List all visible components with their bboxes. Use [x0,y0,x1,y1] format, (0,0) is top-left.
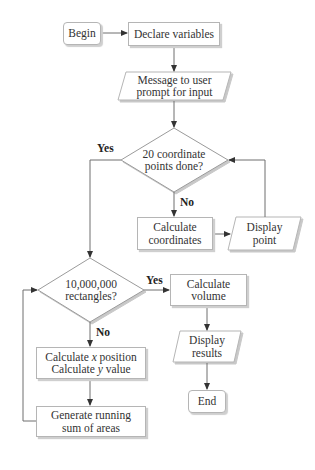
display-results-line1: Display [189,334,225,347]
calculate-coordinates-line2: coordinates [148,234,201,247]
running-sum-line2: sum of areas [62,422,120,435]
display-point-node: Display point [228,217,301,250]
decision1-node: 20 coordinate points done? [130,145,218,175]
calc-x-pre: Calculate [45,351,91,363]
begin-label: Begin [68,27,95,40]
display-point-line1: Display [247,221,283,234]
calculate-volume-line1: Calculate [187,278,230,291]
declare-variables-label: Declare variables [134,28,214,41]
display-results-node: Display results [173,331,241,362]
calc-y-pre: Calculate [51,363,97,375]
end-label: End [198,395,217,408]
decision1-line2: points done? [145,160,203,173]
decision2-no-label: No [96,326,110,338]
calculate-x-line: Calculate x position [45,351,136,364]
message-node: Message to user prompt for input [118,72,231,100]
display-results-line2: results [192,347,222,360]
running-sum-node: Generate running sum of areas [36,406,146,437]
begin-node: Begin [63,22,101,45]
decision2-line2: rectangles? [65,290,117,303]
message-line1: Message to user [137,74,211,87]
decision1-no-label: No [180,196,194,208]
calc-x-post: position [97,351,137,363]
decision2-node: 10,000,000 rectangles? [48,275,134,305]
calculate-y-line: Calculate y value [51,363,130,376]
running-sum-line1: Generate running [51,409,131,422]
calc-y-post: value [103,363,131,375]
calculate-volume-node: Calculate volume [170,274,247,306]
message-line2: prompt for input [136,86,212,99]
calculate-xy-node: Calculate x position Calculate y value [36,347,146,379]
declare-variables-node: Declare variables [128,22,220,46]
decision2-yes-label: Yes [146,274,163,286]
calculate-volume-line2: volume [191,290,226,303]
calculate-coordinates-line1: Calculate [153,221,196,234]
decision1-line1: 20 coordinate [143,148,206,161]
end-node: End [188,390,226,413]
decision1-yes-label: Yes [97,142,114,154]
display-point-line2: point [253,234,277,247]
calculate-coordinates-node: Calculate coordinates [137,217,213,250]
decision2-line1: 10,000,000 [65,278,117,291]
